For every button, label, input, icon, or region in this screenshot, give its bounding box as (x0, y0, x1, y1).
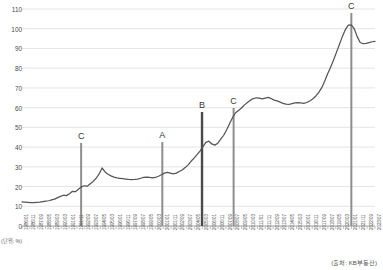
marker-label-c-0: C (78, 131, 85, 141)
y-tick-label: 90 (2, 45, 22, 52)
marker-label-a-1: A (159, 130, 165, 140)
y-tick-label: 0 (2, 223, 22, 230)
y-tick-label: 40 (2, 144, 22, 151)
marker-label-c-4: C (348, 1, 355, 11)
y-axis-tick-labels: 0102030405060708090100110 (0, 0, 22, 230)
y-tick-label: 30 (2, 163, 22, 170)
y-tick-label: 100 (2, 25, 22, 32)
marker-label-b-2: B (199, 100, 205, 110)
price-index-line-chart: 0102030405060708090100110 1986/011986/11… (0, 0, 383, 270)
y-tick-label: 20 (2, 183, 22, 190)
marker-label-c-3: C (230, 96, 237, 106)
y-tick-label: 60 (2, 104, 22, 111)
y-tick-label: 80 (2, 65, 22, 72)
chart-canvas (0, 0, 383, 270)
y-tick-label: 70 (2, 84, 22, 91)
y-tick-label: 10 (2, 203, 22, 210)
y-tick-label: 50 (2, 124, 22, 131)
source-attribution: (출처: KB부동산) (331, 258, 377, 267)
data-series-line (22, 25, 375, 203)
y-axis-unit-label: (단위: %) (1, 237, 22, 244)
y-tick-label: 110 (2, 6, 22, 13)
